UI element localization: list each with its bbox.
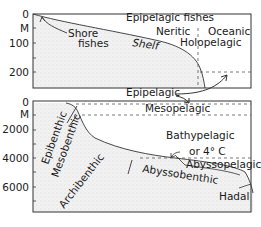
top-tick-unit: M	[20, 22, 29, 34]
top-panel: 0 M 100 200 Shore fishes Epipelagic fish…	[9, 8, 251, 88]
label-holopelagic: Holopelagic	[180, 36, 242, 48]
label-or-4c: or 4° C	[189, 145, 226, 157]
top-tick-0: 0	[22, 8, 29, 20]
label-fishes: fishes	[78, 37, 109, 49]
four-degree-arrow	[171, 152, 180, 157]
label-bathypelagic: Bathypelagic	[166, 129, 235, 141]
bottom-panel: 0 M 2000 4000 6000 Mesopelagic Bathypela…	[2, 96, 261, 212]
top-tick-100: 100	[9, 37, 29, 49]
bottom-tick-6000: 6000	[2, 181, 29, 193]
label-epipelagic: Epipelagic	[126, 86, 180, 98]
label-abyssopelagic: Abyssopelagic	[186, 158, 261, 170]
top-tick-200: 200	[9, 66, 29, 78]
label-mesopelagic: Mesopelagic	[145, 102, 210, 114]
bottom-tick-2000: 2000	[2, 123, 29, 135]
label-hadal: Hadal	[219, 190, 249, 202]
label-epipelagic-fishes: Epipelagic fishes	[126, 11, 214, 23]
ocean-zones-diagram: 0 M 100 200 Shore fishes Epipelagic fish…	[0, 0, 261, 227]
bottom-tick-0: 0	[22, 96, 29, 108]
bottom-tick-4000: 4000	[2, 152, 29, 164]
bottom-tick-unit: M	[20, 108, 29, 120]
